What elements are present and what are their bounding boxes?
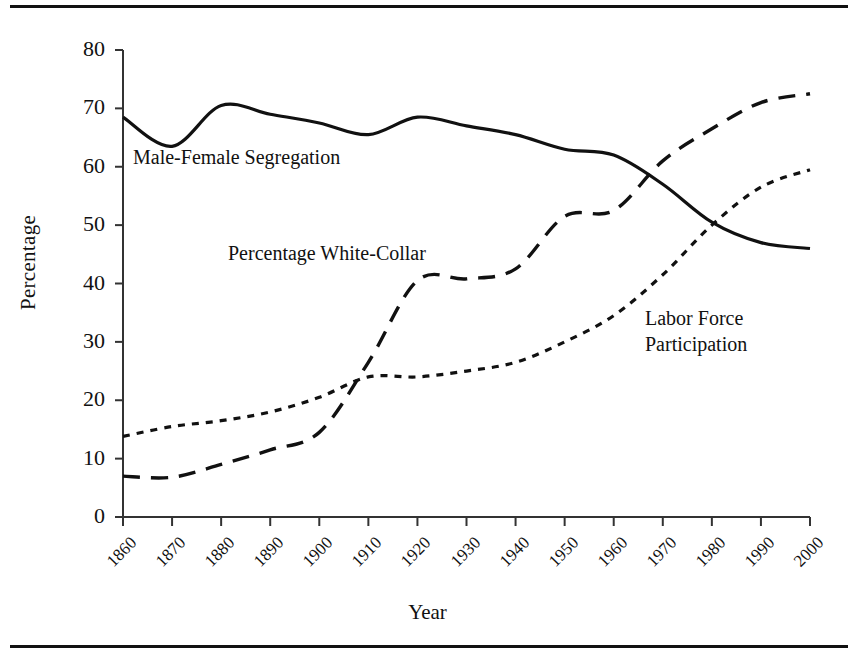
y-tick-label: 30 [59,330,105,352]
series-line-2 [123,170,810,437]
series-label-white-collar: Percentage White-Collar [228,240,426,266]
y-tick-label: 0 [59,505,105,527]
series-label-segregation: Male-Female Segregation [133,144,340,170]
chart-axes [115,50,810,526]
series-line-0 [123,104,810,248]
y-tick-label: 20 [59,388,105,410]
y-tick-label: 10 [59,447,105,469]
y-tick-label: 60 [59,155,105,177]
figure-container: Percentage Year 01020304050607080 186018… [0,0,855,662]
y-tick-label: 70 [59,96,105,118]
y-tick-label: 50 [59,213,105,235]
series-label-labor-force: Labor Force Participation [645,305,747,357]
y-tick-label: 40 [59,272,105,294]
y-tick-label: 80 [59,38,105,60]
